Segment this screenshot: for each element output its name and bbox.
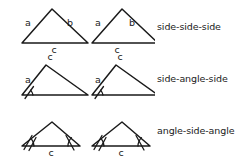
criterion-label-asa: angle-side-angle (157, 125, 244, 136)
triangle-congruence-diagram: a b c a b c side-side-side (0, 0, 244, 162)
side-label-a-right: a (95, 74, 101, 85)
row-side-side-side: a b c a b c side-side-side (0, 0, 244, 54)
side-label-c-left: c (48, 147, 53, 158)
side-label-a-left: a (25, 74, 31, 85)
row-side-angle-side: a c a c side-angle-side (0, 52, 244, 106)
side-label-c-left: c (47, 52, 52, 62)
triangle-sss-left (22, 9, 88, 43)
side-label-b-right: b (129, 17, 135, 28)
triangle-sss-right (92, 9, 155, 43)
triangle-pair-sas: a c a c (0, 52, 155, 106)
criterion-label-sss: side-side-side (157, 21, 244, 32)
side-label-c-right: c (118, 147, 123, 158)
triangle-sas-left (22, 65, 88, 95)
row-angle-side-angle: c c angle-side-angle (0, 104, 244, 158)
triangle-pair-asa: c c (0, 104, 155, 158)
triangle-asa-left (22, 122, 80, 146)
side-label-a-left: a (25, 17, 31, 28)
triangle-asa-right (92, 122, 150, 146)
triangle-pair-sss: a b c a b c (0, 0, 155, 54)
side-label-a-right: a (95, 17, 101, 28)
side-label-b-left: b (67, 17, 73, 28)
side-label-c-right: c (117, 52, 122, 62)
criterion-label-sas: side-angle-side (157, 73, 244, 84)
